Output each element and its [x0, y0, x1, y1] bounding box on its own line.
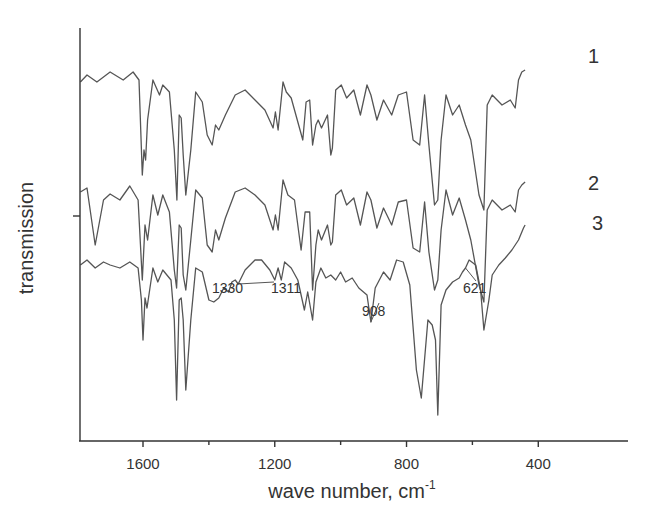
peak-annotations: 13301311908621	[212, 268, 487, 322]
spectrum-curve-2	[80, 180, 525, 302]
x-axis-title: wave number, cm-1	[267, 478, 436, 502]
x-tick-label-400: 400	[526, 455, 551, 472]
series-label-1: 1	[588, 45, 599, 67]
spectrum-curve-3	[80, 225, 525, 415]
series-label-3: 3	[592, 212, 603, 234]
x-tick-label-1600: 1600	[126, 455, 159, 472]
x-axis-title-text: wave number, cm	[267, 480, 425, 502]
x-tick-label-1200: 1200	[258, 455, 291, 472]
ir-spectrum-chart: 13301311908621 16001200800400 transmissi…	[0, 0, 649, 523]
x-tick-label-800: 800	[394, 455, 419, 472]
y-axis-title: transmission	[15, 182, 37, 294]
annotation-908: 908	[362, 303, 386, 319]
series-labels: 123	[588, 45, 603, 234]
spectrum-curve-1	[80, 70, 525, 210]
annotation-1311: 1311	[271, 280, 301, 296]
annotation-1330: 1330	[212, 280, 243, 296]
annotation-leader-1311	[238, 282, 274, 284]
x-axis-title-superscript: -1	[425, 478, 436, 492]
axes	[73, 28, 628, 441]
spectrum-curves	[80, 70, 525, 415]
annotation-621: 621	[463, 280, 487, 296]
x-ticks: 16001200800400	[126, 441, 550, 472]
series-label-2: 2	[588, 172, 599, 194]
